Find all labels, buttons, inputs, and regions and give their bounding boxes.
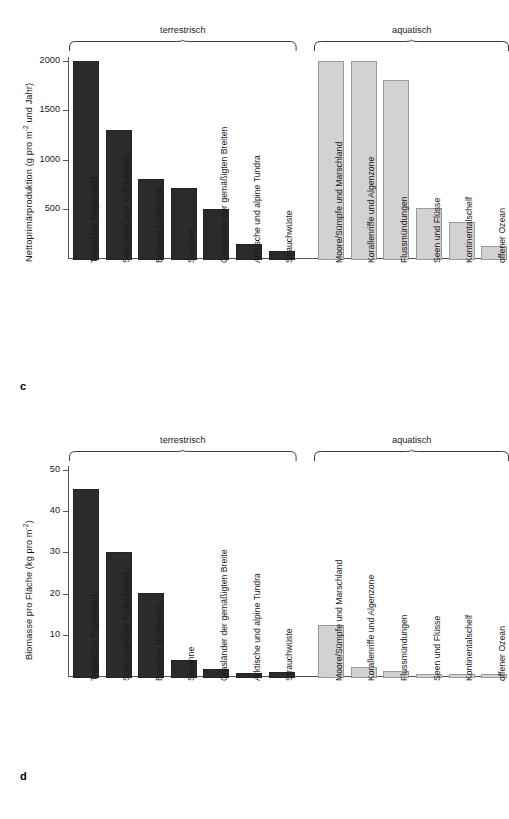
x-category-label: offener Ozean	[497, 626, 507, 681]
x-category-label: Grasländer der gemäßigten Breiten	[219, 127, 229, 263]
x-category-label: Moore/Sümpfe und Marschland	[334, 560, 344, 681]
y-tick-c-1000	[63, 160, 68, 161]
y-tick-d-40	[63, 511, 68, 512]
plot-area-c: 500100015002000Tropischer RegenwaldSomme…	[0, 0, 492, 410]
group-bracket-label-aquatisch: aquatisch	[352, 435, 472, 445]
x-category-label: Grasländer der gemäßigten Breite	[219, 549, 229, 681]
y-tick-d-10	[63, 635, 68, 636]
x-category-label: Sommergrüner Falllaubwald	[121, 154, 131, 263]
y-tick-label-d-30: 30	[22, 546, 60, 556]
group-bracket-label-terrestrisch: terrestrisch	[123, 435, 243, 445]
x-category-label: Tropischer Regenwald	[89, 176, 99, 263]
x-category-label: Kontinentalschelf	[464, 615, 474, 681]
x-category-label: Strauchwüste	[284, 628, 294, 681]
y-tick-label-c-2000: 2000	[22, 55, 60, 65]
group-bracket-aquatisch	[314, 40, 509, 51]
y-tick-label-d-10: 10	[22, 629, 60, 639]
group-bracket-label-aquatisch: aquatisch	[352, 25, 472, 35]
y-tick-label-d-40: 40	[22, 505, 60, 515]
x-category-label: Tropischer Regenwald	[89, 594, 99, 681]
x-category-label: Flussmündungen	[399, 614, 409, 681]
y-tick-label-d-50: 50	[22, 464, 60, 474]
x-category-label: Korallenriffe und Algenzone	[366, 157, 376, 263]
y-tick-c-500	[63, 209, 68, 210]
y-tick-label-c-500: 500	[22, 203, 60, 213]
x-category-label: Sommergrüner Falllaubwald	[121, 572, 131, 681]
x-category-label: Flussmündungen	[399, 196, 409, 263]
x-category-label: Arktische und alpine Tundra	[252, 573, 262, 681]
plot-area-d: 1020304050Tropischer RegenwaldSommergrün…	[0, 410, 492, 819]
x-category-label: offener Ozean	[497, 208, 507, 263]
x-category-label: Seen und Flüsse	[432, 198, 442, 263]
x-category-label: Savanne	[186, 647, 196, 681]
x-category-label: Borealer Nadelwald	[154, 187, 164, 263]
x-category-label: Kontinentalschelf	[464, 197, 474, 263]
y-axis-line-c	[68, 57, 69, 259]
x-category-label: Arktische und alpine Tundra	[252, 155, 262, 263]
y-tick-c-2000	[63, 61, 68, 62]
x-category-label: Borealer Nadelwald	[154, 605, 164, 681]
y-tick-d-50	[63, 470, 68, 471]
y-tick-c-1500	[63, 110, 68, 111]
panel-d: d Biomasse pro Fläche (kg pro m-2) 10203…	[0, 410, 492, 819]
y-tick-label-d-20: 20	[22, 588, 60, 598]
y-tick-label-c-1000: 1000	[22, 154, 60, 164]
y-axis-line-d	[68, 466, 69, 677]
x-category-label: Seen und Flüsse	[432, 616, 442, 681]
x-category-label: Savanne	[186, 229, 196, 263]
group-bracket-aquatisch	[314, 450, 509, 461]
y-tick-label-c-1500: 1500	[22, 104, 60, 114]
panel-c: c Nettoprimärproduktion (g pro m-2 und J…	[0, 0, 492, 410]
x-category-label: Moore/Sümpfe und Marschland	[334, 142, 344, 263]
x-category-label: Strauchwüste	[284, 210, 294, 263]
group-bracket-terrestrisch	[69, 450, 297, 461]
group-bracket-label-terrestrisch: terrestrisch	[123, 25, 243, 35]
y-tick-d-20	[63, 594, 68, 595]
group-bracket-terrestrisch	[69, 40, 297, 51]
x-category-label: Korallenriffe und Algenzone	[366, 575, 376, 681]
y-tick-d-30	[63, 552, 68, 553]
